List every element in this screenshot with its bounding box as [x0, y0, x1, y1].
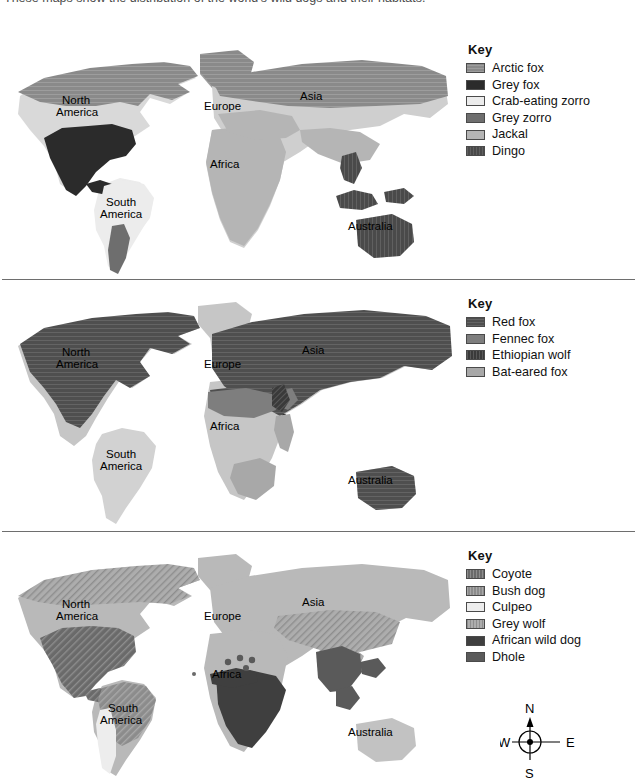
label-south-america-line2: America	[100, 714, 143, 726]
species-point	[249, 657, 255, 663]
label-south-america-line1: South	[108, 702, 138, 714]
legend-label: Dhole	[492, 651, 525, 664]
label-australia: Australia	[348, 474, 393, 486]
label-australia: Australia	[348, 726, 393, 738]
legend-swatch	[466, 367, 485, 377]
world-map-2[interactable]: North America South America Europe Afric…	[0, 288, 452, 530]
legend-list: Red fox Fennec fox Ethiopian wolf Bat-ea…	[466, 314, 636, 380]
legend-item[interactable]: Dhole	[466, 649, 636, 666]
legend-label: Red fox	[492, 316, 535, 329]
legend-item[interactable]: Crab-eating zorro	[466, 93, 636, 110]
label-north-america-line1: North	[62, 598, 90, 610]
legend-swatch	[466, 63, 485, 73]
compass-label-west: W	[500, 735, 511, 750]
legend-title: Key	[468, 296, 636, 311]
label-south-america-line2: America	[100, 460, 143, 472]
legend-swatch	[466, 130, 485, 140]
legend-title: Key	[468, 42, 636, 57]
label-europe: Europe	[204, 100, 241, 112]
compass-label-north: N	[525, 701, 534, 716]
world-map-3[interactable]: North America South America Europe Afric…	[0, 540, 452, 784]
legend-item[interactable]: Bush dog	[466, 583, 636, 600]
label-africa: Africa	[210, 158, 240, 170]
legend-map-3: Key Coyote Bush dog Culpeo Grey wolf	[466, 548, 636, 666]
legend-item[interactable]: Grey fox	[466, 77, 636, 94]
compass-center-dot	[527, 739, 533, 745]
world-map-1[interactable]: North America South America Europe Afric…	[0, 34, 452, 278]
label-north-america-line2: America	[56, 106, 99, 118]
legend-swatch	[466, 652, 485, 662]
label-north-america-line2: America	[56, 610, 99, 622]
legend-swatch	[466, 569, 485, 579]
legend-label: Fennec fox	[492, 333, 554, 346]
label-south-america-line1: South	[106, 448, 136, 460]
panel-divider-1	[2, 279, 635, 280]
legend-swatch	[466, 96, 485, 106]
legend-label: African wild dog	[492, 634, 581, 647]
label-africa: Africa	[212, 668, 242, 680]
legend-title: Key	[468, 548, 636, 563]
legend-swatch	[466, 619, 485, 629]
legend-label: Jackal	[492, 128, 528, 141]
legend-item[interactable]: Ethiopian wolf	[466, 347, 636, 364]
legend-label: Dingo	[492, 145, 525, 158]
legend-label: Coyote	[492, 568, 532, 581]
legend-label: Arctic fox	[492, 62, 544, 75]
worksheet-page: These maps show the distribution of the …	[0, 0, 639, 784]
compass-rose: N E S W	[500, 700, 596, 780]
label-north-america-line1: North	[62, 346, 90, 358]
panel-divider-2	[2, 531, 635, 532]
legend-map-2: Key Red fox Fennec fox Ethiopian wolf Ba…	[466, 296, 636, 380]
legend-label: Grey zorro	[492, 112, 551, 125]
label-asia: Asia	[302, 596, 325, 608]
label-south-america-line2: America	[100, 208, 143, 220]
label-south-america-line1: South	[106, 196, 136, 208]
legend-label: Ethiopian wolf	[492, 349, 570, 362]
compass-north-arrow	[527, 717, 534, 727]
label-north-america-line2: America	[56, 358, 99, 370]
legend-item[interactable]: Fennec fox	[466, 331, 636, 348]
label-africa: Africa	[210, 420, 240, 432]
compass-label-south: S	[525, 766, 534, 780]
label-australia: Australia	[348, 220, 393, 232]
legend-swatch	[466, 636, 485, 646]
legend-item[interactable]: Grey zorro	[466, 110, 636, 127]
label-europe: Europe	[204, 610, 241, 622]
legend-swatch	[466, 113, 485, 123]
legend-item[interactable]: Coyote	[466, 566, 636, 583]
legend-item[interactable]: Bat-eared fox	[466, 364, 636, 381]
legend-swatch	[466, 317, 485, 327]
map-panel-2: North America South America Europe Afric…	[0, 288, 639, 530]
compass-label-east: E	[566, 735, 575, 750]
legend-item[interactable]: African wild dog	[466, 632, 636, 649]
legend-list: Coyote Bush dog Culpeo Grey wolf African…	[466, 566, 636, 666]
legend-item[interactable]: Dingo	[466, 143, 636, 160]
legend-list: Arctic fox Grey fox Crab-eating zorro Gr…	[466, 60, 636, 160]
species-region-dingo	[336, 152, 414, 258]
intro-text: These maps show the distribution of the …	[4, 0, 425, 5]
label-europe: Europe	[204, 358, 241, 370]
legend-item[interactable]: Culpeo	[466, 599, 636, 616]
legend-label: Bat-eared fox	[492, 366, 568, 379]
legend-label: Grey wolf	[492, 618, 545, 631]
legend-item[interactable]: Grey wolf	[466, 616, 636, 633]
legend-label: Culpeo	[492, 601, 532, 614]
species-point	[243, 665, 249, 671]
legend-label: Bush dog	[492, 585, 545, 598]
label-asia: Asia	[300, 90, 323, 102]
legend-swatch	[466, 146, 485, 156]
map-panel-1: North America South America Europe Afric…	[0, 34, 639, 278]
legend-label: Grey fox	[492, 79, 540, 92]
label-asia: Asia	[302, 344, 325, 356]
legend-swatch	[466, 334, 485, 344]
species-region-dhole	[316, 646, 386, 710]
legend-item[interactable]: Red fox	[466, 314, 636, 331]
species-point	[225, 659, 231, 665]
legend-swatch	[466, 350, 485, 360]
legend-map-1: Key Arctic fox Grey fox Crab-eating zorr…	[466, 42, 636, 160]
legend-item[interactable]: Jackal	[466, 126, 636, 143]
species-region-grey-zorro	[108, 224, 130, 274]
label-north-america-line1: North	[62, 94, 90, 106]
legend-label: Crab-eating zorro	[492, 95, 590, 108]
legend-item[interactable]: Arctic fox	[466, 60, 636, 77]
